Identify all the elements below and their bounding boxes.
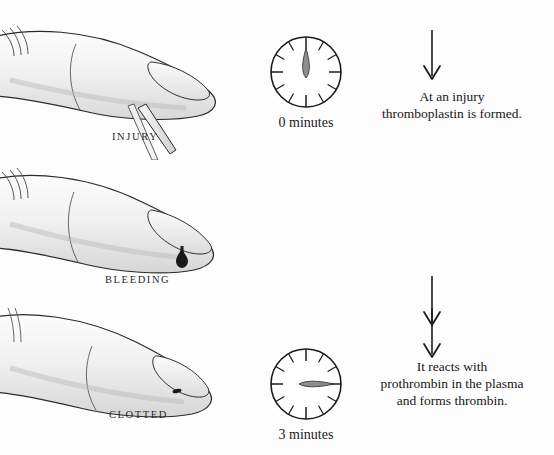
blood-clotting-figure: 0 minutes At an injury thromboplastin is… — [0, 0, 554, 455]
step-text-1: At an injury thromboplastin is formed. — [352, 88, 552, 122]
down-arrow-icon-3b — [420, 274, 444, 330]
clock-face-icon — [266, 32, 346, 112]
clock-caption: 0 minutes — [251, 115, 361, 131]
step-text-line: thromboplastin is formed. — [352, 105, 552, 122]
stage-label-injury: INJURY — [112, 131, 158, 142]
stage-row-injury: 0 minutes At an injury thromboplastin is… — [0, 0, 554, 160]
finger-illustration-clotted — [0, 300, 240, 455]
stage-label-clotted: CLOTTED — [109, 409, 168, 420]
step-text-line: At an injury — [352, 88, 552, 105]
stage-row-clotted: 6 minutes The thrombin immediately react… — [0, 300, 554, 455]
down-arrow-icon-1 — [420, 28, 444, 84]
finger-clotted-drawing — [0, 300, 240, 450]
clock-0-minutes: 0 minutes — [251, 32, 361, 131]
stage-row-bleeding: 3 minutes It reacts with prothrombin in … — [0, 158, 554, 303]
stage-label-bleeding: BLEEDING — [105, 274, 170, 285]
